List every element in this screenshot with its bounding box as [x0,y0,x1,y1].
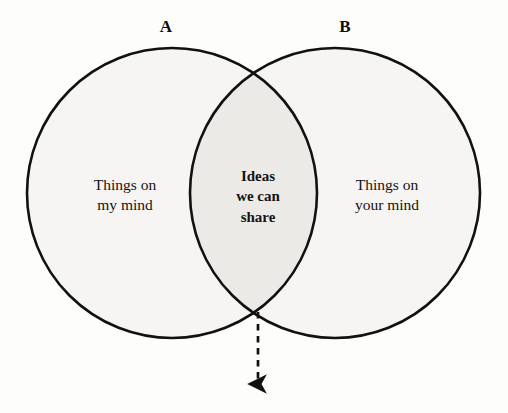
left-region-text: Things on my mind [48,175,202,216]
set-b-label: B [325,18,365,35]
intersection-region-text-line-2: we can [210,186,306,206]
intersection-region-text-line-3: share [210,207,306,227]
venn-diagram-canvas: A B Things on my mind Ideas we can share… [0,0,508,413]
right-region-text-line-1: Things on [310,175,464,195]
right-region-text-line-2: your mind [310,195,464,215]
right-region-text: Things on your mind [310,175,464,216]
set-a-label: A [146,18,186,35]
left-region-text-line-2: my mind [48,195,202,215]
intersection-region-text-line-1: Ideas [210,166,306,186]
intersection-region-text: Ideas we can share [210,166,306,227]
left-region-text-line-1: Things on [48,175,202,195]
